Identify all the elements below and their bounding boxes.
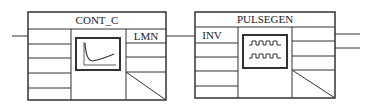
pulsegen-diagonal [292,70,335,98]
pulsegen-block[interactable]: PULSEGEN INV [195,12,335,98]
step-response-curve-icon [76,38,120,70]
cont-c-title: CONT_C [76,14,119,26]
function-block-diagram: CONT_C LMN PULSEGEN INV [0,0,371,109]
pulsegen-title: PULSEGEN [237,13,293,25]
cont-c-block[interactable]: CONT_C LMN [28,12,166,100]
cont-c-output-lmn: LMN [134,30,159,42]
pulsegen-input-inv: INV [202,29,222,41]
cont-c-diagonal [126,72,166,100]
pulse-train-icon [243,35,287,68]
